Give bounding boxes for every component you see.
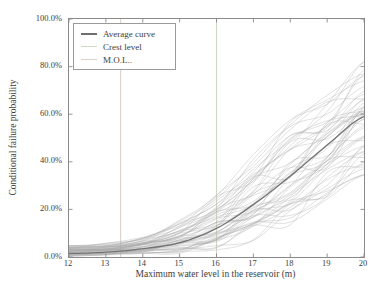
y-tick-label: 20.0% (24, 203, 62, 214)
average-curve-line-swatch (81, 33, 97, 35)
legend-label: M.O.L.. (103, 55, 132, 65)
x-tick-label: 20 (351, 258, 375, 269)
legend-item-mol: M.O.L.. (74, 53, 175, 66)
x-tick-label: 14 (130, 258, 154, 269)
legend-label: Crest level (103, 42, 142, 52)
crest-level-line-swatch (81, 46, 97, 47)
y-tick-label: 40.0% (24, 155, 62, 166)
x-tick-label: 15 (167, 258, 191, 269)
x-tick-label: 16 (204, 258, 228, 269)
plot-area: Average curve Crest level M.O.L.. (68, 18, 365, 258)
legend-item-average-curve: Average curve (74, 27, 175, 40)
x-axis-title: Maximum water level in the reservoir (m) (68, 269, 363, 279)
x-tick-label: 17 (240, 258, 264, 269)
x-tick-label: 18 (277, 258, 301, 269)
mol-line-swatch (81, 59, 97, 60)
y-axis-title: Conditional failure probability (8, 58, 21, 218)
y-tick-label: 100.0% (24, 13, 62, 24)
x-tick-label: 19 (314, 258, 338, 269)
y-tick-label: 60.0% (24, 108, 62, 119)
y-tick-label: 80.0% (24, 60, 62, 71)
legend-label: Average curve (103, 29, 155, 39)
y-tick-label: 0.0% (24, 251, 62, 262)
legend-item-crest-level: Crest level (74, 40, 175, 53)
x-tick-label: 13 (93, 258, 117, 269)
legend-box: Average curve Crest level M.O.L.. (73, 23, 176, 70)
figure: Conditional failure probability Average … (0, 0, 385, 292)
